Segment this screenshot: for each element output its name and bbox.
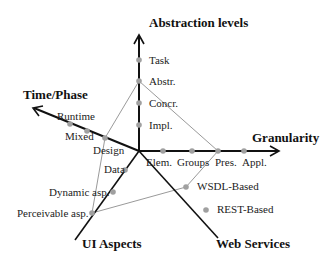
tick-groups: Groups [177, 156, 209, 168]
kiviat-diagram: Abstraction levels Granularity Time/Phas… [0, 0, 330, 266]
tick-abstr: Abstr. [149, 75, 176, 87]
granularity-title: Granularity [252, 130, 320, 145]
tick-pres: Pres. [215, 156, 237, 168]
tick-elem: Elem. [146, 156, 172, 168]
abstraction-title: Abstraction levels [149, 15, 248, 30]
tick-dynamic: Dynamic asp. [49, 186, 110, 198]
tick-mixed: Mixed [65, 130, 94, 142]
tick-data: Data [104, 163, 125, 175]
tick-wsdl: WSDL-Based [197, 180, 259, 192]
tick-perceivable: Perceivable asp. [17, 207, 89, 219]
ui-aspects-title: UI Aspects [82, 236, 142, 251]
granularity-axis [139, 146, 279, 156]
tick-appl: Appl. [242, 156, 267, 168]
tick-design: Design [93, 144, 125, 156]
abstraction-axis [134, 35, 144, 151]
tick-runtime: Runtime [57, 110, 95, 122]
time-phase-title: Time/Phase [23, 87, 88, 102]
tick-rest: REST-Based [217, 203, 274, 215]
web-services-title: Web Services [216, 236, 290, 251]
tick-impl: Impl. [149, 119, 173, 131]
tick-task: Task [149, 54, 170, 66]
tick-concr: Concr. [149, 97, 178, 109]
